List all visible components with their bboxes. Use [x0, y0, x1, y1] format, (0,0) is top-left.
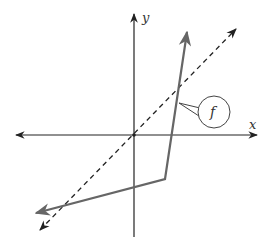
- x-axis-label: x: [249, 117, 257, 132]
- identity-line-dashed: [40, 29, 236, 230]
- function-label-callout: f: [179, 96, 230, 128]
- function-f-curve: [36, 32, 187, 213]
- origin-point: [132, 133, 136, 137]
- function-graph-diagram: x y f: [0, 0, 261, 237]
- y-axis-label: y: [141, 10, 150, 25]
